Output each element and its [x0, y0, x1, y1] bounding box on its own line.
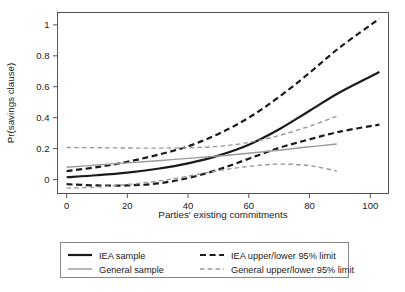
legend-label: General upper/lower 95% limit — [231, 265, 355, 275]
chart-figure: 02040608010000.20.40.60.81 Parties' exis… — [0, 0, 405, 292]
x-tick-label: 0 — [64, 200, 69, 211]
legend-label: General sample — [99, 265, 164, 275]
x-tick-label: 100 — [362, 200, 378, 211]
y-tick-label: 0.4 — [36, 112, 49, 123]
savings-clause-probability-chart: 02040608010000.20.40.60.81 Parties' exis… — [0, 0, 405, 292]
x-tick-label: 20 — [122, 200, 133, 211]
y-tick-label: 0.2 — [36, 143, 49, 154]
y-tick-label: 0.8 — [36, 50, 49, 61]
legend-label: IEA upper/lower 95% limit — [231, 251, 336, 261]
x-axis-title: Parties' existing commitments — [158, 209, 287, 220]
x-tick-label: 80 — [304, 200, 315, 211]
legend-label: IEA sample — [99, 251, 145, 261]
y-tick-label: 0.6 — [36, 81, 49, 92]
y-tick-label: 0 — [44, 174, 49, 185]
y-tick-label: 1 — [44, 19, 49, 30]
y-axis-title: Pr(savings clause) — [5, 63, 16, 144]
